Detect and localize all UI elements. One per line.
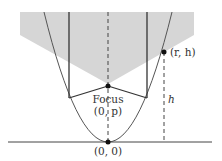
origin-point — [106, 140, 111, 145]
rh-point — [162, 50, 167, 55]
focus-coord-label: (0, p) — [94, 105, 122, 117]
focus-point — [106, 84, 111, 89]
point-label: (r, h) — [170, 46, 196, 58]
shaded-region — [20, 12, 194, 84]
origin-label: (0, 0) — [94, 145, 122, 157]
focus-label: Focus — [92, 93, 123, 105]
height-label: h — [168, 93, 175, 105]
parabola-diagram: Focus (0, p) (0, 0) (r, h) h — [0, 0, 222, 161]
